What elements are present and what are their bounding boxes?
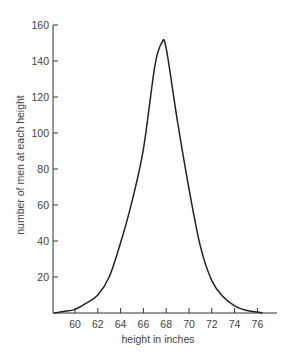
y-tick-label: 140 [31,55,49,67]
y-tick-label: 120 [31,91,49,103]
y-axis-title: number of men at each height [14,95,26,235]
y-tick-label: 40 [37,235,49,247]
y-tick-label: 20 [37,271,49,283]
y-tick-label: 80 [37,163,49,175]
x-tick-label: 66 [138,318,150,330]
x-tick-label: 68 [160,318,172,330]
x-tick-label: 60 [69,318,81,330]
x-axis-title: height in inches [122,333,195,345]
y-tick-label: 100 [31,127,49,139]
x-tick-label: 64 [115,318,127,330]
x-tick-label: 70 [183,318,195,330]
x-tick-label: 72 [206,318,218,330]
distribution-curve [54,40,261,313]
x-axis: 606264666870727476 [53,308,277,330]
x-tick-label: 62 [92,318,104,330]
y-tick-label: 160 [31,19,49,31]
x-tick-label: 74 [229,318,241,330]
y-axis: 20406080100120140160 [31,19,58,313]
x-tick-label: 76 [252,318,264,330]
y-tick-label: 60 [37,199,49,211]
chart-canvas: 20406080100120140160 606264666870727476 … [0,0,293,363]
